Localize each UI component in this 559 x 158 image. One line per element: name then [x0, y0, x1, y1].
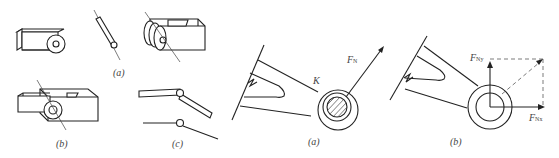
lever-force-diagram-a [232, 45, 384, 130]
clevis-block-a [17, 29, 65, 53]
fork-a [144, 12, 205, 62]
force-fnx-label: FNx [529, 112, 542, 123]
pin-a [94, 10, 120, 60]
force-fn-label: FN [347, 54, 357, 65]
point-k-label: K [313, 75, 320, 86]
caption-left-b: (b) [56, 138, 68, 149]
lever-force-diagram-b [390, 36, 545, 129]
caption-middle-a: (a) [308, 136, 320, 147]
caption-left-a: (a) [113, 67, 125, 78]
caption-right-b: (b) [450, 136, 462, 147]
link-diagram-c [139, 89, 218, 139]
clevis-assembly-b [18, 80, 98, 130]
diagram-canvas [0, 0, 559, 158]
caption-left-c: (c) [172, 138, 183, 149]
force-fny-label: FNy [470, 52, 483, 63]
